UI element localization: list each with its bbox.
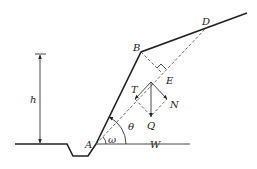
label-d: D	[201, 16, 210, 27]
label-theta: θ	[128, 121, 134, 132]
label-w: W	[150, 139, 161, 150]
right-angle-marker	[157, 64, 166, 69]
label-h: h	[30, 94, 36, 105]
label-omega: ω	[108, 134, 116, 145]
label-b: B	[132, 42, 140, 53]
label-q: Q	[147, 120, 155, 131]
force-n-arrow	[151, 82, 167, 99]
omega-angle-arc	[103, 137, 106, 144]
label-e: E	[165, 75, 174, 86]
label-a: A	[84, 139, 92, 150]
perpendicular-be-line	[141, 52, 162, 73]
label-t: T	[131, 84, 139, 95]
slope-diagram: h A B D E T N Q W θ ω	[0, 0, 257, 169]
label-n: N	[169, 99, 180, 110]
ground-line	[15, 144, 96, 156]
